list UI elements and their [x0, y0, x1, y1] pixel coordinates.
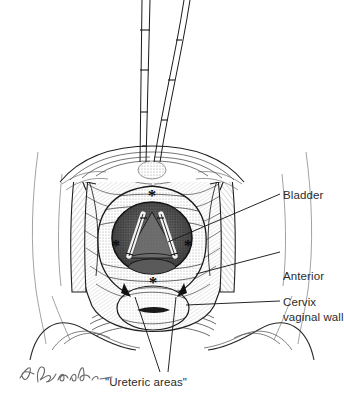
asterisk-left: *	[112, 236, 121, 255]
asterisk-inferior: *	[149, 273, 158, 292]
illustration-canvas: * * * * Bladder Anterior vaginal wall	[0, 0, 344, 402]
artist-signature	[20, 367, 112, 382]
asterisk-superior: *	[148, 186, 157, 205]
surgical-instrument-right	[154, 0, 190, 162]
surgical-instrument-left	[140, 0, 150, 162]
label-anterior-vaginal-wall-line1: Anterior	[283, 270, 344, 284]
label-ureteric-areas: "Ureteric areas"	[105, 376, 187, 390]
label-anterior-vaginal-wall-line2: vaginal wall	[283, 311, 344, 325]
label-bladder: Bladder	[283, 189, 323, 203]
label-cervix: Cervix	[283, 296, 316, 310]
asterisk-right: *	[184, 236, 193, 255]
